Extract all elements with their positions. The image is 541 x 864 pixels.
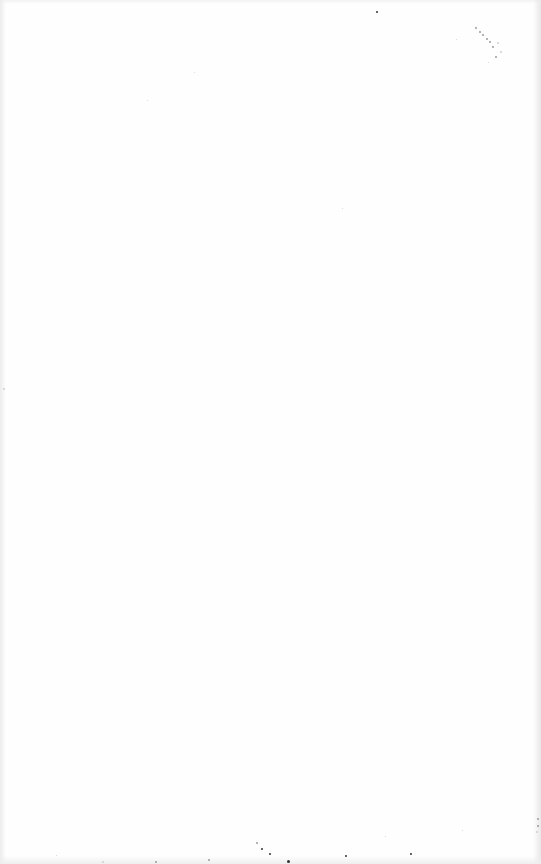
scan-speck	[208, 859, 210, 861]
scan-speck	[342, 208, 343, 209]
scan-speck	[497, 42, 499, 44]
scan-speck	[489, 41, 491, 43]
page-edge-shadow-left	[0, 0, 6, 864]
scan-speck	[495, 56, 497, 58]
scan-speck	[269, 853, 271, 855]
scan-speck	[475, 27, 477, 29]
scan-speck	[56, 855, 57, 856]
scan-speck	[482, 34, 484, 36]
scan-speck	[345, 855, 347, 857]
scan-speck	[410, 853, 412, 855]
scan-speck	[256, 842, 258, 844]
scan-speck	[147, 100, 148, 101]
page-edge-shadow-bottom	[0, 856, 541, 864]
scan-speck	[537, 825, 539, 827]
scan-speck	[500, 51, 502, 53]
scan-speck	[492, 46, 494, 48]
scan-speck	[486, 38, 488, 40]
scan-speck	[194, 72, 195, 73]
scan-speck	[287, 860, 290, 863]
scan-speck	[479, 31, 481, 33]
page-edge-shadow-right	[533, 0, 541, 864]
scan-speck	[261, 848, 263, 850]
scan-speck	[537, 818, 539, 820]
scan-speck	[376, 11, 378, 13]
blank-scanned-page	[0, 0, 541, 864]
scan-speck	[3, 388, 5, 390]
scan-speck	[102, 861, 104, 863]
scan-speck	[155, 861, 157, 863]
page-edge-shadow-top	[0, 0, 541, 4]
scan-speck	[456, 39, 457, 40]
scan-speck	[462, 830, 463, 831]
scan-speck	[385, 836, 386, 837]
scan-speck	[536, 831, 538, 833]
scan-speck	[488, 62, 489, 63]
